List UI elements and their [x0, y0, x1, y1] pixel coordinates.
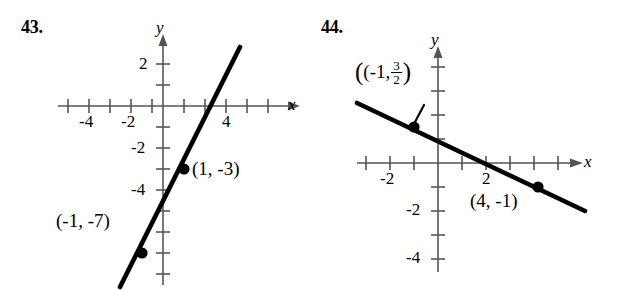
point-label-prefix: (-1, — [363, 61, 390, 82]
y-tick-label-neg2-43: -2 — [131, 138, 145, 158]
point-label-1-neg3: (1, -3) — [192, 158, 239, 180]
y-tick-label-neg4-43: -4 — [131, 180, 145, 200]
leader-line-44 — [415, 105, 424, 122]
y-axis-label-44: y — [431, 30, 439, 50]
fraction-three-halves: 32 — [391, 59, 402, 86]
point-label-4-neg1: (4, -1) — [470, 190, 517, 212]
y-tick-label-2-43: 2 — [139, 54, 148, 74]
y-tick-label-neg2-44: -2 — [406, 200, 420, 220]
graph-43 — [0, 0, 312, 293]
close-paren: ) — [403, 58, 411, 85]
x-tick-label-neg2-44: -2 — [380, 169, 394, 189]
point-marker-1-neg3 — [178, 163, 189, 174]
fraction-numerator: 3 — [391, 59, 402, 72]
x-axis-arrow-44 — [570, 159, 583, 168]
point-marker-neg1-neg7 — [136, 247, 147, 258]
y-axis-label-43: y — [156, 18, 164, 38]
open-paren: ( — [355, 58, 363, 85]
point-label-neg1-three-halves: ((-1,32) — [355, 60, 411, 87]
x-tick-label-4-43: 4 — [222, 112, 231, 132]
fraction-denominator: 2 — [391, 72, 402, 86]
x-tick-label-neg2-43: -2 — [121, 112, 135, 132]
x-tick-label-2-44: 2 — [482, 169, 491, 189]
point-label-neg1-neg7: (-1, -7) — [56, 210, 110, 232]
y-tick-label-neg4-44: -4 — [406, 248, 420, 268]
panel-problem-43: 43. — [0, 0, 312, 293]
x-tick-label-neg4-43: -4 — [79, 112, 93, 132]
point-marker-neg1-three-halves — [408, 121, 419, 132]
x-axis-label-44: x — [584, 152, 592, 172]
point-marker-4-neg1 — [532, 181, 543, 192]
figure-container: 43. — [0, 0, 624, 293]
panel-problem-44: 44. — [312, 0, 624, 293]
x-axis-label-43: x — [288, 95, 296, 115]
graph-44 — [312, 0, 624, 293]
